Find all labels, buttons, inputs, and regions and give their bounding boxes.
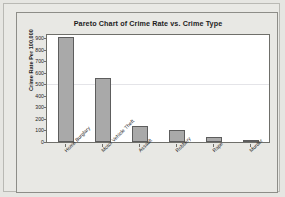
y-tick-label: 0 xyxy=(28,139,44,145)
plot-area xyxy=(46,34,270,143)
chart-figure: Pareto Chart of Crime Rate vs. Crime Typ… xyxy=(16,12,278,193)
y-tick-label: 300 xyxy=(28,104,44,110)
y-tick-label: 400 xyxy=(28,93,44,99)
y-tick-label: 700 xyxy=(28,58,44,64)
y-axis-ticks: 0100200300400500600700800900 xyxy=(26,34,44,143)
y-tick-label: 100 xyxy=(28,127,44,133)
y-tick-label: 200 xyxy=(28,116,44,122)
y-tick-label: 800 xyxy=(28,47,44,53)
y-tick-label: 900 xyxy=(28,35,44,41)
chart-title: Pareto Chart of Crime Rate vs. Crime Typ… xyxy=(17,19,279,28)
gridline xyxy=(47,84,269,85)
x-axis-labels: Home BurglaryMotor Vehicle TheftAssaultR… xyxy=(46,144,270,192)
page-background: Pareto Chart of Crime Rate vs. Crime Typ… xyxy=(3,3,280,192)
plot-inner xyxy=(47,35,269,142)
bar-motor-vehicle-theft xyxy=(95,78,111,142)
bar-home-burglary xyxy=(58,37,74,142)
y-tick-label: 600 xyxy=(28,70,44,76)
y-tick-label: 500 xyxy=(28,81,44,87)
screenshot-root: Pareto Chart of Crime Rate vs. Crime Typ… xyxy=(0,0,285,197)
